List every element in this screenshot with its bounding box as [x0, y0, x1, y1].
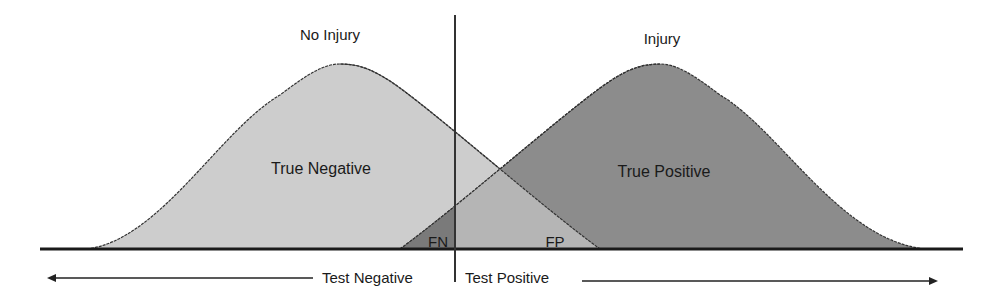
injury-label: Injury — [644, 30, 681, 47]
left-arrow-icon — [47, 274, 56, 282]
right-arrow-icon — [929, 277, 938, 285]
false-positive-label: FP — [545, 233, 564, 250]
true-positive-label: True Positive — [618, 163, 711, 180]
test-positive-label: Test Positive — [465, 269, 549, 286]
test-negative-label: Test Negative — [322, 269, 413, 286]
true-negative-label: True Negative — [271, 160, 371, 177]
diagnostic-test-diagram: No Injury Injury True Negative True Posi… — [0, 0, 1001, 300]
no-injury-label: No Injury — [300, 26, 361, 43]
false-negative-label: FN — [428, 233, 448, 250]
